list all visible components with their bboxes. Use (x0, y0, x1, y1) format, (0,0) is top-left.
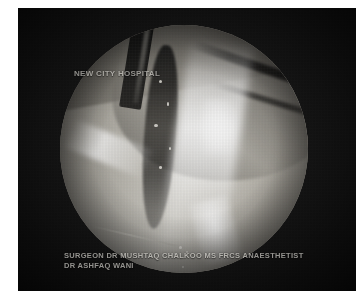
tissue-speck (169, 147, 171, 150)
screenshot-root: NEW CITY HOSPITAL SURGEON DR MUSHTAQ CHA… (0, 0, 362, 299)
endoscope-field-of-view (60, 25, 308, 273)
bright-speck (182, 266, 184, 268)
endoscopic-photo-frame: NEW CITY HOSPITAL SURGEON DR MUSHTAQ CHA… (18, 8, 356, 291)
tissue-speck (154, 124, 158, 127)
tissue-speck (167, 102, 170, 106)
bright-speck (179, 246, 182, 249)
tissue-speck (159, 80, 162, 83)
specular-highlight-hot (201, 99, 233, 154)
